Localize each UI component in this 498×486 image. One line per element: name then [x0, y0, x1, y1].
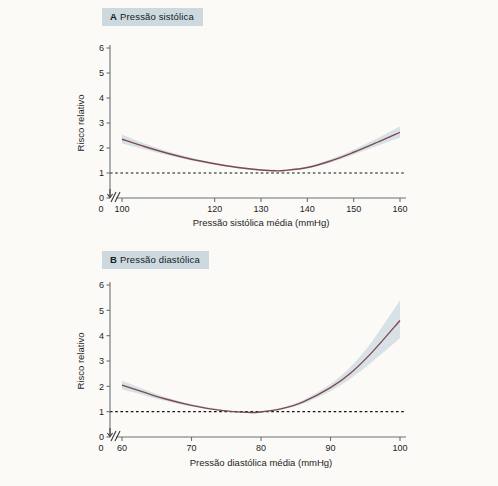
y-tick-label: 2	[99, 143, 104, 153]
y-tick-label: 5	[99, 68, 104, 78]
x-tick-label: 60	[117, 443, 127, 453]
x-axis-title: Pressão diastólica média (mmHg)	[190, 457, 333, 468]
x-tick-label: 140	[300, 204, 315, 214]
panel-systolic: APressão sistólica 012345610012013014015…	[0, 0, 498, 243]
y-tick-label: 6	[99, 280, 104, 290]
x-tick-label: 100	[392, 443, 407, 453]
y-axis-title: Risco relativo	[75, 94, 86, 151]
x-tick-label: 130	[253, 204, 268, 214]
panel-a-plot: 01234561001201301401501600Pressão sistól…	[0, 0, 498, 243]
x-tick-label: 160	[392, 204, 407, 214]
y-tick-label: 3	[99, 356, 104, 366]
y-tick-label: 4	[99, 331, 104, 341]
y-tick-label: 0	[99, 193, 104, 203]
x-tick-label: 70	[186, 443, 196, 453]
y-axis-title: Risco relativo	[75, 332, 86, 389]
x-origin-label: 0	[98, 204, 103, 214]
y-tick-label: 4	[99, 93, 104, 103]
panel-b-plot: 0123456607080901000Pressão diastólica mé…	[0, 243, 498, 486]
panel-diastolic: BPressão diastólica 0123456607080901000P…	[0, 243, 498, 486]
y-tick-label: 0	[99, 432, 104, 442]
y-tick-label: 1	[99, 407, 104, 417]
x-tick-label: 90	[325, 443, 335, 453]
x-tick-label: 120	[207, 204, 222, 214]
x-tick-label: 80	[256, 443, 266, 453]
y-tick-label: 3	[99, 118, 104, 128]
x-tick-label: 100	[114, 204, 129, 214]
y-tick-label: 2	[99, 382, 104, 392]
figure-container: APressão sistólica 012345610012013014015…	[0, 0, 498, 486]
y-tick-label: 6	[99, 43, 104, 53]
y-tick-label: 5	[99, 306, 104, 316]
x-tick-label: 150	[346, 204, 361, 214]
y-tick-label: 1	[99, 168, 104, 178]
x-axis-title: Pressão sistólica média (mmHg)	[193, 217, 330, 228]
x-origin-label: 0	[98, 443, 103, 453]
